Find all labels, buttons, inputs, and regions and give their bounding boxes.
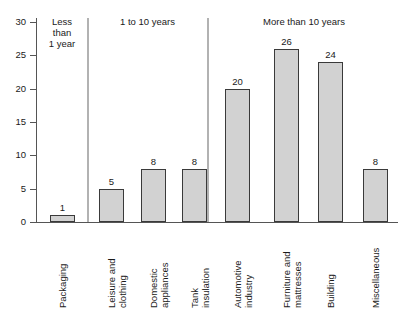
group-separator-2 bbox=[207, 18, 209, 222]
bar-value-label: 8 bbox=[353, 157, 398, 167]
bar[interactable] bbox=[50, 215, 75, 222]
x-axis-category-label: Furniture and mattresses bbox=[282, 230, 303, 308]
x-axis-category-label: Miscellaneous bbox=[371, 230, 382, 308]
bar-value-label: 8 bbox=[172, 157, 217, 167]
bar[interactable] bbox=[318, 62, 343, 222]
x-axis-category-label: Building bbox=[326, 230, 337, 308]
bar-value-label: 20 bbox=[215, 77, 260, 87]
y-axis-tick-mark bbox=[30, 22, 37, 23]
y-axis-tick-label: 15 bbox=[4, 117, 26, 127]
bar[interactable] bbox=[363, 169, 388, 222]
group-separator-1 bbox=[87, 18, 89, 222]
x-axis-category-label: Automotive industry bbox=[233, 230, 254, 308]
group-header-1-to-10-years: 1 to 10 years bbox=[90, 16, 205, 27]
y-axis-tick-mark bbox=[30, 122, 37, 123]
bar[interactable] bbox=[274, 49, 299, 222]
y-axis-tick-label: 20 bbox=[4, 84, 26, 94]
bar[interactable] bbox=[141, 169, 166, 222]
y-axis-tick-mark bbox=[30, 55, 37, 56]
bar[interactable] bbox=[225, 89, 250, 222]
bar[interactable] bbox=[99, 189, 124, 222]
x-axis-line bbox=[36, 222, 398, 223]
y-axis-tick-label: 0 bbox=[4, 217, 26, 227]
bar-value-label: 24 bbox=[308, 50, 353, 60]
y-axis-tick-mark bbox=[30, 189, 37, 190]
x-axis-category-label: Domestic appliances bbox=[149, 230, 170, 308]
group-header-more-than-10-years: More than 10 years bbox=[210, 16, 398, 27]
bar-value-label: 1 bbox=[40, 203, 85, 213]
group-header-less-than-1-year: Less than 1 year bbox=[38, 16, 86, 49]
x-axis-category-label: Leisure and clothing bbox=[107, 230, 128, 308]
y-axis-tick-mark bbox=[30, 89, 37, 90]
x-axis-category-label: Tank insulation bbox=[190, 230, 211, 308]
bar-chart: 302520151050 Less than 1 year 1 to 10 ye… bbox=[0, 0, 405, 312]
y-axis-tick-label: 5 bbox=[4, 184, 26, 194]
bar-value-label: 5 bbox=[89, 177, 134, 187]
bar-value-label: 8 bbox=[131, 157, 176, 167]
x-axis-category-label: Packaging bbox=[58, 230, 69, 308]
y-axis-tick-label: 10 bbox=[4, 150, 26, 160]
y-axis-line bbox=[36, 18, 37, 223]
y-axis-tick-mark bbox=[30, 222, 37, 223]
y-axis-tick-label: 25 bbox=[4, 50, 26, 60]
plot-area: 302520151050 Less than 1 year 1 to 10 ye… bbox=[0, 0, 405, 312]
y-axis-tick-label: 30 bbox=[4, 17, 26, 27]
bar[interactable] bbox=[182, 169, 207, 222]
y-axis-tick-mark bbox=[30, 155, 37, 156]
bar-value-label: 26 bbox=[264, 37, 309, 47]
